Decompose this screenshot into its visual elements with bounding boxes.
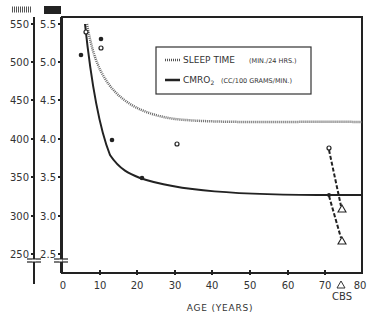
cmro-tick-4.0: 4.0: [40, 134, 56, 145]
x-axis-ticks: 0 10 20 30 40 50 60 70 80 CBS: [60, 270, 367, 302]
left-tick-550: 550: [10, 19, 29, 30]
left-tick-250: 250: [10, 249, 29, 260]
legend-cmro-label: CMRO2: [183, 75, 214, 86]
x-tick-80: 80: [354, 280, 367, 291]
left-tick-300: 300: [10, 211, 29, 222]
x-tick-0: 0: [60, 280, 66, 291]
x-tick-30: 30: [169, 280, 182, 291]
chart: 550 500 450 400 350 300 250 5.5 5.0 4.5 …: [0, 0, 371, 317]
cmro-point: [140, 176, 145, 181]
cmro-tick-3.5: 3.5: [40, 172, 56, 183]
cmro-axis-ticks: 5.5 5.0 4.5 4.0 3.5 3.0 2.5: [40, 19, 61, 260]
legend-sleep-label: SLEEP TIME: [183, 55, 235, 65]
cmro-point: [110, 138, 115, 143]
cbs-cmro-triangle-icon: [338, 237, 346, 244]
left-tick-350: 350: [10, 172, 29, 183]
cbs-sleep-dashed: [329, 150, 341, 206]
x-axis-label: AGE (YEARS): [187, 303, 254, 313]
x-tick-60: 60: [282, 280, 295, 291]
cmro-tick-3.0: 3.0: [40, 211, 56, 222]
cmro-tick-5.0: 5.0: [40, 57, 56, 68]
x-tick-70: 70: [319, 280, 332, 291]
left-axis-key-dotted: [12, 6, 32, 13]
cmro-tick-5.5: 5.5: [40, 19, 56, 30]
sleep-point: [99, 46, 103, 50]
x-tick-40: 40: [206, 280, 219, 291]
x-tick-20: 20: [131, 280, 144, 291]
legend-cmro-units: (CC/100 GRAMS/MIN.): [221, 77, 292, 85]
legend: SLEEP TIME (MIN./24 HRS.) CMRO2 (CC/100 …: [156, 47, 311, 94]
cmro-point: [99, 37, 104, 42]
cmro-tick-2.5: 2.5: [40, 249, 56, 260]
cbs-cmro-dashed: [329, 196, 341, 238]
left-tick-400: 400: [10, 134, 29, 145]
right-axis-key-solid: [44, 6, 61, 14]
left-tick-450: 450: [10, 95, 29, 106]
cbs-sleep-triangle-icon: [338, 205, 346, 212]
x-tick-10: 10: [94, 280, 107, 291]
left-tick-500: 500: [10, 57, 29, 68]
cbs-label: CBS: [332, 291, 352, 302]
legend-sleep-units: (MIN./24 HRS.): [249, 57, 297, 65]
sleep-point: [327, 146, 331, 150]
cmro-point: [79, 53, 84, 58]
x-tick-50: 50: [244, 280, 257, 291]
left-axis-ticks: 550 500 450 400 350 300 250: [10, 19, 34, 260]
cbs-triangle-icon: [337, 281, 345, 288]
sleep-point: [175, 142, 179, 146]
cmro-tick-4.5: 4.5: [40, 95, 56, 106]
sleep-point: [84, 30, 88, 34]
